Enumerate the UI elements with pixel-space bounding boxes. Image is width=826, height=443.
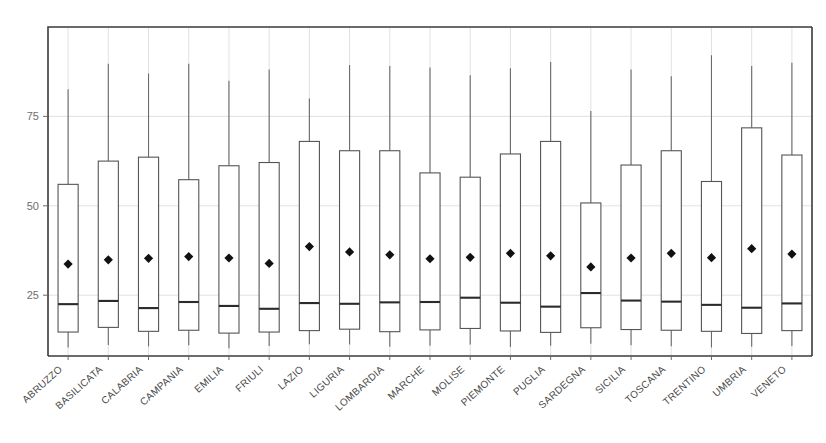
box-plot-item <box>621 70 641 346</box>
box-plot-item <box>742 66 762 347</box>
box-plot-series <box>58 55 802 348</box>
box-plot-item <box>460 75 480 344</box>
x-category-label: CAMPANIA <box>138 363 185 407</box>
y-tick-label: 25 <box>27 289 39 301</box>
box-plot-item <box>782 63 802 346</box>
box-plot-item <box>98 64 118 345</box>
x-category-label: TRENTINO <box>661 363 708 407</box>
box-plot-item <box>701 55 721 347</box>
x-category-label: FRIULI <box>233 363 265 394</box>
box-plot-item <box>500 68 520 347</box>
box-iqr <box>138 157 158 331</box>
box-iqr <box>219 166 239 333</box>
box-plot-item <box>179 64 199 345</box>
box-plot-item <box>340 65 360 345</box>
x-category-label: UMBRIA <box>710 363 748 398</box>
x-category-label: EMILIA <box>192 363 225 394</box>
box-iqr <box>340 151 360 329</box>
x-category-label: MOLISE <box>430 363 467 398</box>
y-tick-label: 50 <box>27 200 39 212</box>
x-category-label: MARCHE <box>385 363 426 401</box>
box-iqr <box>58 184 78 332</box>
y-tick-label: 75 <box>27 110 39 122</box>
box-plot-item <box>380 66 400 347</box>
x-category-label: PUGLIA <box>511 363 547 397</box>
box-iqr <box>98 161 118 327</box>
box-plot-item <box>581 111 601 344</box>
plot-canvas: 255075 ABRUZZOBASILICATACALABRIACAMPANIA… <box>0 0 826 443</box>
box-plot-item <box>420 67 440 345</box>
box-iqr <box>380 151 400 332</box>
x-category-label: LIGURIA <box>307 363 346 399</box>
box-iqr <box>500 154 520 331</box>
box-plot-item <box>541 62 561 346</box>
x-category-label: VENETO <box>749 363 788 400</box>
x-category-label: PIEMONTE <box>459 363 507 408</box>
x-category-label: LAZIO <box>276 363 306 392</box>
box-plot-item <box>138 73 158 346</box>
box-plot-item <box>661 76 681 346</box>
boxplot-figure: 255075 ABRUZZOBASILICATACALABRIACAMPANIA… <box>0 0 826 443</box>
box-iqr <box>621 165 641 330</box>
box-plot-item <box>58 89 78 347</box>
box-iqr <box>541 141 561 332</box>
x-category-label: SICILIA <box>593 363 628 396</box>
box-plot-item <box>259 70 279 346</box>
box-iqr <box>661 151 681 331</box>
box-plot-item <box>299 99 319 345</box>
box-plot-item <box>219 81 239 348</box>
box-iqr <box>420 173 440 330</box>
x-axis-category-labels: ABRUZZOBASILICATACALABRIACAMPANIAEMILIAF… <box>20 363 788 412</box>
box-iqr <box>259 163 279 333</box>
box-iqr <box>742 128 762 334</box>
